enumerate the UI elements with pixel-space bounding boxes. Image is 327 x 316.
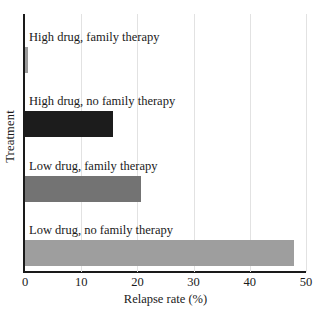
bar-category-label: High drug, no family therapy xyxy=(29,95,175,108)
bar-group: High drug, family therapy xyxy=(25,47,306,73)
x-tick-label: 10 xyxy=(75,275,88,289)
y-axis-title: Treatment xyxy=(0,0,20,272)
x-tick-label: 40 xyxy=(244,275,257,289)
bar-group: Low drug, family therapy xyxy=(25,176,306,202)
bar-category-label: Low drug, no family therapy xyxy=(29,224,173,237)
x-axis-title: Relapse rate (%) xyxy=(25,292,306,307)
y-axis-title-text: Treatment xyxy=(3,110,18,163)
bar xyxy=(25,176,141,202)
bar-category-label: High drug, family therapy xyxy=(29,31,160,44)
bar xyxy=(25,47,28,73)
plot-area: High drug, family therapyHigh drug, no f… xyxy=(25,14,306,272)
relapse-rate-bar-chart: Treatment High drug, family therapyHigh … xyxy=(0,0,327,316)
gridline xyxy=(306,14,307,272)
x-tick-label: 20 xyxy=(131,275,144,289)
bar-group: High drug, no family therapy xyxy=(25,111,306,137)
x-tick-label: 50 xyxy=(300,275,313,289)
bar-category-label: Low drug, family therapy xyxy=(29,160,157,173)
bar xyxy=(25,111,113,137)
x-tick-label: 30 xyxy=(187,275,200,289)
bar-group: Low drug, no family therapy xyxy=(25,240,306,266)
x-tick-label: 0 xyxy=(22,275,28,289)
bar xyxy=(25,240,294,266)
